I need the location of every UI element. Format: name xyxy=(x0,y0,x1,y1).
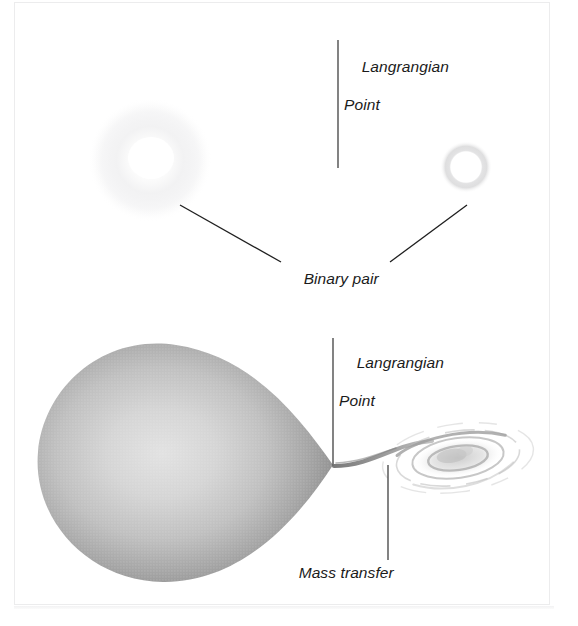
label-lagrangian-point-top-line1: Langrangian xyxy=(362,58,449,75)
diffuse-star-primary xyxy=(88,98,212,222)
label-binary-pair: Binary pair xyxy=(286,250,379,307)
leader-line-binary-pair-left xyxy=(180,205,281,262)
label-mass-transfer-line1: Mass transfer xyxy=(299,564,394,581)
label-lagrangian-point-bottom-line1: Langrangian xyxy=(357,354,444,371)
label-lagrangian-point-top-line2: Point xyxy=(344,95,449,114)
label-binary-pair-line1: Binary pair xyxy=(304,270,379,287)
label-lagrangian-point-top: Langrangian Point xyxy=(344,38,449,152)
leader-line-binary-pair-right xyxy=(390,205,467,262)
diagram-canvas xyxy=(0,0,578,626)
label-lagrangian-point-bottom-line2: Point xyxy=(339,391,444,410)
label-mass-transfer: Mass transfer xyxy=(281,544,394,601)
label-lagrangian-point-bottom: Langrangian Point xyxy=(339,334,444,448)
figure-root: Langrangian Point Binary pair Langrangia… xyxy=(0,0,578,626)
